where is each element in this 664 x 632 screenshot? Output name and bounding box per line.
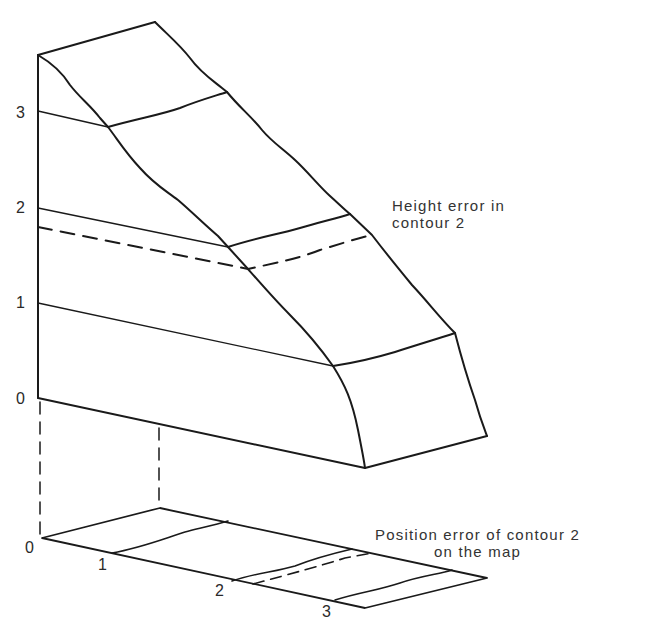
base-front-edge — [38, 398, 365, 468]
contour-2-front — [38, 208, 228, 247]
map-contour-3 — [335, 570, 452, 600]
vertical-tick-2: 2 — [16, 200, 25, 216]
vertical-tick-3: 3 — [16, 105, 25, 121]
vertical-tick-0: 0 — [16, 391, 25, 407]
height-error-annotation: Height error in contour 2 — [392, 197, 505, 231]
top-edge — [38, 22, 155, 55]
height-error-line1: Height error in — [392, 197, 505, 214]
map-contour-2 — [232, 549, 352, 581]
base-side-edge — [365, 436, 487, 468]
contour-2-top — [228, 214, 350, 247]
position-error-line2: on the map — [375, 543, 580, 560]
position-error-annotation: Position error of contour 2 on the map — [375, 526, 580, 560]
map-contour-1 — [112, 521, 228, 553]
vertical-tick-1: 1 — [16, 295, 25, 311]
position-error-line1: Position error of contour 2 — [375, 526, 580, 543]
contour-1-top — [333, 333, 455, 366]
map-tick-1: 1 — [98, 557, 107, 573]
contour-3-top — [108, 92, 227, 127]
map-tick-0: 0 — [25, 540, 34, 556]
height-error-line2: contour 2 — [392, 214, 505, 231]
map-tick-2: 2 — [215, 583, 224, 599]
map-contour-2-error-dashed — [253, 553, 372, 584]
contour-2-error-dashed — [38, 227, 372, 269]
front-slope-edge — [38, 55, 365, 468]
map-tick-3: 3 — [322, 604, 331, 620]
